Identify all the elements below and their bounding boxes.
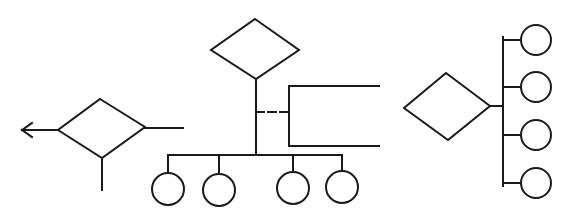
entity-circle (521, 168, 551, 198)
entity-circle (152, 173, 184, 205)
entity-circle (521, 120, 551, 150)
arrowhead-lower-icon (22, 130, 32, 137)
entity-circle (521, 25, 551, 55)
arrowhead-upper-icon (22, 123, 32, 130)
center-relationship-group (152, 19, 379, 206)
entity-circle (203, 174, 235, 206)
diagram-canvas (0, 0, 574, 220)
entity-circle (521, 72, 551, 102)
entity-circle (326, 171, 358, 203)
relationship-diamond (404, 73, 490, 140)
right-relationship-group (404, 25, 551, 198)
entity-circle (277, 172, 309, 204)
relationship-diamond (211, 19, 299, 79)
relationship-diamond (58, 99, 145, 158)
